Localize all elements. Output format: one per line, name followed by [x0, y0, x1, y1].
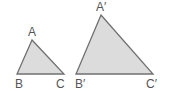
vertex-label-c: C — [56, 77, 65, 91]
diagram-svg: A B C A′ B′ C′ — [0, 0, 169, 91]
triangle-abc — [17, 40, 64, 74]
vertex-label-b-prime: B′ — [75, 77, 86, 91]
vertex-label-a-prime: A′ — [96, 0, 107, 14]
triangle-a-prime-b-prime-c-prime — [76, 15, 153, 74]
vertex-label-b: B — [15, 77, 23, 91]
similar-triangles-diagram: A B C A′ B′ C′ — [0, 0, 169, 91]
vertex-label-c-prime: C′ — [146, 77, 158, 91]
vertex-label-a: A — [28, 25, 36, 39]
